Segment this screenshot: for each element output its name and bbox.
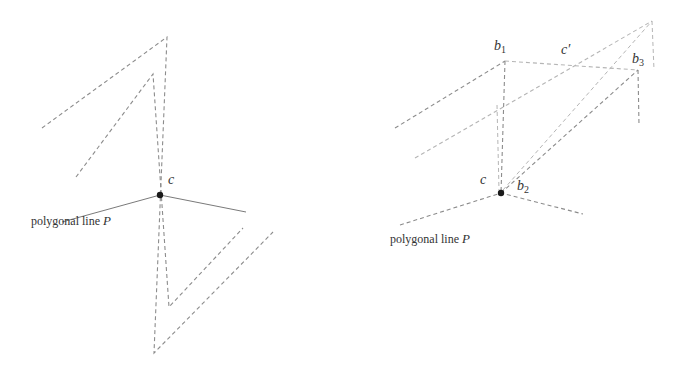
diagram-canvas bbox=[0, 0, 697, 374]
left-polygonal-line-label: polygonal line P bbox=[31, 213, 111, 229]
right-polygonal-line-text: polygonal line bbox=[390, 232, 459, 246]
right-polygonal-line bbox=[400, 193, 583, 225]
left-inner-dashed-path bbox=[76, 74, 243, 307]
left-vertex-c-dot bbox=[157, 192, 163, 198]
right-line-to-b1 bbox=[395, 61, 505, 128]
right-polygonal-line-var: P bbox=[462, 231, 470, 246]
right-c-to-apex bbox=[503, 21, 652, 190]
right-vertex-c-label: c bbox=[480, 172, 486, 188]
right-b1-to-c bbox=[501, 61, 505, 193]
right-short-vertical bbox=[497, 105, 499, 190]
left-polygonal-line-text: polygonal line bbox=[31, 214, 100, 228]
b2-letter: b bbox=[517, 178, 524, 193]
left-diagram bbox=[42, 37, 273, 353]
b1-letter: b bbox=[494, 38, 501, 53]
right-b1-to-b3 bbox=[505, 61, 638, 70]
right-b1-label: b1 bbox=[494, 38, 506, 54]
right-c-prime-label: c′ bbox=[561, 42, 570, 58]
right-c-to-b3 bbox=[501, 70, 638, 193]
right-vertex-c-dot bbox=[498, 190, 504, 196]
b1-subscript: 1 bbox=[501, 44, 506, 55]
left-vertex-c-label: c bbox=[168, 172, 174, 188]
right-polygonal-line-label: polygonal line P bbox=[390, 231, 470, 247]
right-b3-vertical bbox=[638, 70, 639, 125]
b2-subscript: 2 bbox=[524, 184, 529, 195]
b3-subscript: 3 bbox=[639, 57, 644, 68]
b3-letter: b bbox=[632, 51, 639, 66]
right-apex-vertical bbox=[652, 21, 654, 70]
left-polygonal-line-var: P bbox=[103, 213, 111, 228]
right-b2-label: b2 bbox=[517, 178, 529, 194]
right-b3-label: b3 bbox=[632, 51, 644, 67]
